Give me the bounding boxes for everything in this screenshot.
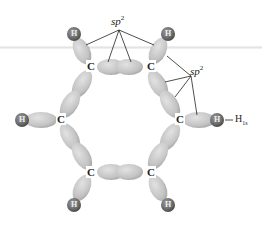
- carbon-top-left: C: [86, 60, 96, 72]
- cc-bond-bottom: [97, 164, 143, 180]
- hydrogen-label-bottom-right: H: [165, 200, 171, 209]
- carbon-bottom-left: C: [86, 166, 96, 178]
- sp2-label-top-sup: 2: [121, 14, 125, 22]
- carbon-right: C: [175, 113, 185, 125]
- h1s-label: H1s: [235, 113, 248, 126]
- hydrogen-label-bottom-left: H: [71, 200, 77, 209]
- hydrogen-label-left: H: [19, 115, 25, 124]
- sp2-label-top: sp2: [111, 14, 124, 27]
- hydrogen-label-top-left: H: [71, 29, 77, 38]
- sp2-label-right-sup: 2: [200, 64, 204, 72]
- hydrogen-label-right: H: [214, 115, 220, 124]
- hydrogen-label-top-right: H: [165, 29, 171, 38]
- sp2-label-right-text: sp: [190, 65, 200, 77]
- sp2-label-top-text: sp: [111, 15, 121, 27]
- carbon-left: C: [56, 113, 66, 125]
- cc-bond-top: [97, 59, 143, 75]
- h1s-label-sub: 1s: [242, 120, 247, 126]
- carbon-top-right: C: [146, 60, 156, 72]
- carbon-bottom-right: C: [146, 166, 156, 178]
- sp2-label-right: sp2: [190, 64, 203, 77]
- benzene-orbital-diagram: [0, 0, 262, 226]
- ch-lobe-left: [25, 112, 57, 128]
